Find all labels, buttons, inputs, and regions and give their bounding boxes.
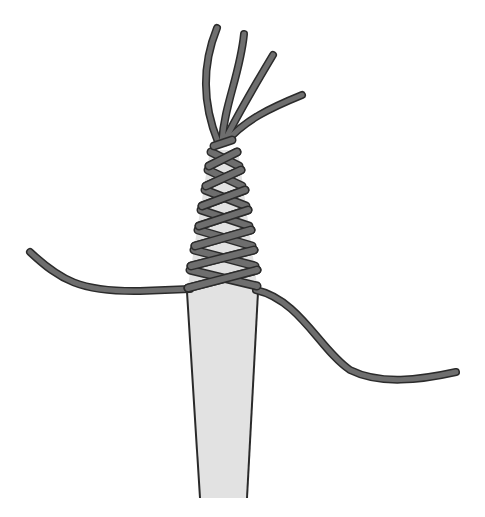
left-cord: [30, 252, 190, 291]
right-cord: [256, 290, 456, 380]
loose-strands: [206, 28, 302, 142]
illustration: Cord wrapping around a stick: [0, 0, 485, 517]
